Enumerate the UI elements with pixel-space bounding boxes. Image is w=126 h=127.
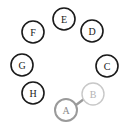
graph-node-h[interactable]: H: [22, 82, 44, 104]
graph-canvas: ABCDEFGH: [0, 0, 126, 127]
graph-node-b[interactable]: B: [82, 83, 104, 105]
node-label-g: G: [18, 60, 25, 71]
graph-edge[interactable]: [76, 99, 84, 105]
node-label-a: A: [62, 105, 70, 116]
graph-node-f[interactable]: F: [22, 21, 44, 43]
graph-node-d[interactable]: D: [81, 20, 103, 42]
edges-layer: [76, 99, 84, 105]
graph-node-e[interactable]: E: [53, 8, 75, 30]
graph-node-c[interactable]: C: [96, 55, 118, 77]
node-label-b: B: [90, 89, 97, 100]
node-label-f: F: [30, 27, 36, 38]
graph-svg: ABCDEFGH: [0, 0, 126, 127]
node-label-c: C: [104, 61, 111, 72]
graph-node-a[interactable]: A: [55, 99, 77, 121]
node-label-e: E: [61, 14, 67, 25]
graph-node-g[interactable]: G: [11, 54, 33, 76]
nodes-layer: ABCDEFGH: [11, 8, 118, 121]
node-label-h: H: [29, 88, 36, 99]
node-label-d: D: [88, 26, 95, 37]
